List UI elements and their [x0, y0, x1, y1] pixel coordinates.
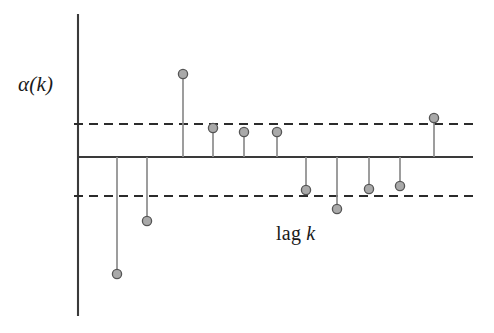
stem-marker-8 [332, 204, 341, 213]
pacf-plot-svg [0, 0, 494, 333]
stem-marker-10 [395, 181, 404, 190]
y-axis-label: α(k) [18, 72, 53, 97]
stem-marker-3 [178, 69, 187, 78]
stem-marker-2 [142, 216, 151, 225]
stem-marker-4 [208, 123, 217, 132]
plot-geometry [74, 14, 478, 316]
stem-marker-1 [112, 269, 121, 278]
x-axis-label-k: k [301, 222, 315, 244]
stem-marker-5 [239, 127, 248, 136]
stem-marker-11 [429, 113, 438, 122]
x-axis-label: lagk [276, 222, 316, 245]
x-axis-label-lag: lag [276, 222, 301, 244]
pacf-figure: α(k) lagk [0, 0, 494, 333]
stem-marker-6 [272, 127, 281, 136]
stem-marker-9 [364, 184, 373, 193]
stem-marker-7 [301, 185, 310, 194]
